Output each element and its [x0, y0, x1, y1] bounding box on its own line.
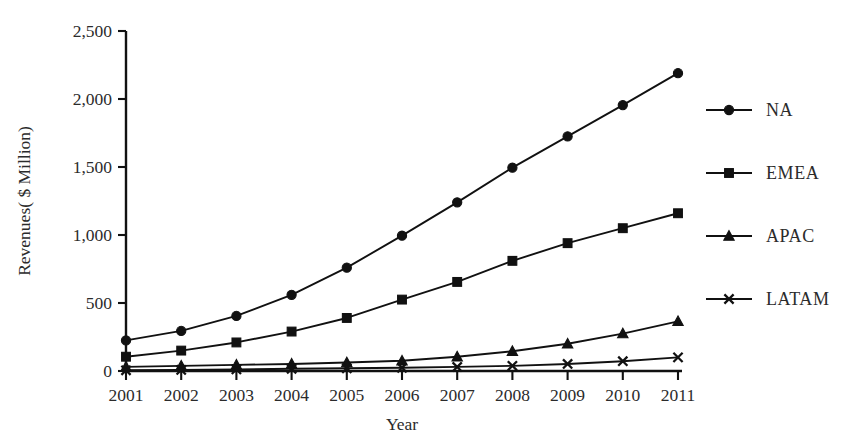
legend-item-apac[interactable]: APAC	[706, 226, 815, 246]
legend-marker-circle-icon	[724, 105, 733, 114]
data-point-emea-2002	[177, 346, 186, 355]
data-point-emea-2006	[398, 295, 407, 304]
legend-label-emea: EMEA	[766, 163, 819, 183]
data-point-na-2008	[508, 163, 517, 172]
data-point-emea-2011	[674, 209, 683, 218]
legend-label-latam: LATAM	[766, 289, 830, 309]
data-point-emea-2008	[508, 256, 517, 265]
data-point-emea-2005	[342, 314, 351, 323]
y-tick-label: 1,000	[73, 225, 113, 245]
chart-canvas: 05001,0001,5002,0002,5002001200220032004…	[0, 0, 859, 447]
data-point-na-2005	[342, 263, 351, 272]
data-point-na-2010	[618, 101, 627, 110]
data-point-emea-2010	[618, 224, 627, 233]
x-tick-label: 2004	[274, 385, 309, 405]
data-point-emea-2001	[122, 352, 131, 361]
revenue-line-chart-figure: 05001,0001,5002,0002,5002001200220032004…	[0, 0, 859, 447]
x-tick-label: 2009	[550, 385, 585, 405]
data-point-emea-2009	[563, 239, 572, 248]
x-tick-label: 2008	[495, 385, 530, 405]
data-point-na-2003	[232, 311, 241, 320]
y-tick-label: 2,000	[73, 89, 113, 109]
x-tick-label: 2007	[440, 385, 475, 405]
data-point-na-2009	[563, 132, 572, 141]
legend-label-na: NA	[766, 100, 793, 120]
x-tick-label: 2002	[164, 385, 199, 405]
data-point-na-2001	[121, 336, 130, 345]
x-tick-label: 2010	[605, 385, 640, 405]
y-tick-label: 500	[86, 293, 113, 313]
data-point-na-2002	[177, 326, 186, 335]
data-point-emea-2003	[232, 338, 241, 347]
data-point-na-2007	[453, 198, 462, 207]
y-tick-label: 2,500	[73, 21, 113, 41]
y-axis-title: Revenues( $ Million)	[14, 126, 34, 276]
legend-item-na[interactable]: NA	[706, 100, 793, 120]
x-tick-label: 2003	[219, 385, 254, 405]
legend-label-apac: APAC	[766, 226, 815, 246]
data-point-apac-2011	[673, 316, 683, 326]
data-point-na-2011	[673, 69, 682, 78]
legend-marker-square-icon	[725, 169, 734, 178]
legend-item-emea[interactable]: EMEA	[706, 163, 819, 183]
data-point-emea-2004	[287, 327, 296, 336]
legend-item-latam[interactable]: LATAM	[706, 289, 830, 309]
y-tick-label: 1,500	[73, 157, 113, 177]
data-point-emea-2007	[453, 278, 462, 287]
x-tick-label: 2001	[109, 385, 144, 405]
y-tick-label: 0	[103, 361, 112, 381]
data-point-na-2006	[397, 231, 406, 240]
x-tick-label: 2011	[661, 385, 695, 405]
data-point-na-2004	[287, 290, 296, 299]
x-tick-label: 2006	[385, 385, 420, 405]
x-tick-label: 2005	[329, 385, 364, 405]
x-axis-title: Year	[386, 414, 418, 434]
